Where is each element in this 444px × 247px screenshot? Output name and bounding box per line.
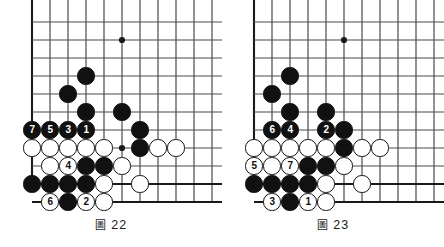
white-stone[interactable]: [23, 139, 40, 156]
move-stone-black-1[interactable]: 1: [77, 121, 94, 138]
star-point: [119, 37, 125, 43]
diagram-page: 7531462 圖 22 6425731 圖 23: [0, 0, 444, 247]
black-stone[interactable]: [77, 67, 94, 84]
move-number: 1: [83, 125, 88, 135]
move-stone-black-3[interactable]: 3: [59, 121, 76, 138]
move-stone-black-2[interactable]: 2: [317, 121, 334, 138]
black-stone[interactable]: [317, 157, 334, 174]
black-stone[interactable]: [335, 121, 352, 138]
black-stone[interactable]: [131, 139, 148, 156]
white-stone[interactable]: [95, 139, 112, 156]
move-stone-black-6[interactable]: 6: [263, 121, 280, 138]
figure-caption-number-23: 23: [333, 218, 349, 232]
black-stone[interactable]: [23, 175, 40, 192]
move-stone-white-1[interactable]: 1: [299, 193, 316, 210]
figure-caption-23: 圖 23: [222, 216, 444, 232]
move-number: 1: [305, 197, 310, 207]
move-stone-white-2[interactable]: 2: [77, 193, 94, 210]
black-stone[interactable]: [113, 103, 130, 120]
black-stone[interactable]: [281, 175, 298, 192]
black-stone[interactable]: [281, 103, 298, 120]
move-number: 5: [47, 125, 52, 135]
white-stone[interactable]: [95, 175, 112, 192]
white-stone[interactable]: [335, 157, 352, 174]
move-number: 7: [287, 161, 292, 171]
black-stone[interactable]: [59, 175, 76, 192]
move-number: 6: [47, 197, 52, 207]
black-stone[interactable]: [59, 85, 76, 102]
black-stone[interactable]: [41, 175, 58, 192]
move-number: 3: [65, 125, 70, 135]
white-stone[interactable]: [131, 175, 148, 192]
move-number: 6: [269, 125, 274, 135]
white-stone[interactable]: [263, 157, 280, 174]
white-stone[interactable]: [245, 139, 262, 156]
star-point: [341, 37, 347, 43]
white-stone[interactable]: [149, 139, 166, 156]
star-point: [119, 145, 125, 151]
black-stone[interactable]: [263, 85, 280, 102]
white-stone[interactable]: [41, 157, 58, 174]
go-board-23[interactable]: 6425731: [222, 0, 444, 212]
black-stone[interactable]: [263, 175, 280, 192]
move-number: 2: [323, 125, 328, 135]
white-stone[interactable]: [113, 157, 130, 174]
move-stone-black-7[interactable]: 7: [23, 121, 40, 138]
white-stone[interactable]: [41, 139, 58, 156]
black-stone[interactable]: [95, 157, 112, 174]
white-stone[interactable]: [95, 193, 112, 210]
black-stone[interactable]: [299, 157, 316, 174]
move-number: 2: [83, 197, 88, 207]
go-board-22[interactable]: 7531462: [0, 0, 222, 212]
white-stone[interactable]: [353, 139, 370, 156]
white-stone[interactable]: [371, 139, 388, 156]
black-stone[interactable]: [281, 67, 298, 84]
black-stone[interactable]: [77, 103, 94, 120]
figure-caption-glyph-22: 圖: [95, 219, 107, 232]
black-stone[interactable]: [77, 175, 94, 192]
move-stone-white-5[interactable]: 5: [245, 157, 262, 174]
black-stone[interactable]: [59, 193, 76, 210]
move-number: 3: [269, 197, 274, 207]
white-stone[interactable]: [317, 139, 334, 156]
black-stone[interactable]: [77, 157, 94, 174]
figure-caption-22: 圖 22: [0, 216, 222, 232]
white-stone[interactable]: [167, 139, 184, 156]
black-stone[interactable]: [299, 175, 316, 192]
move-stone-white-3[interactable]: 3: [263, 193, 280, 210]
white-stone[interactable]: [353, 175, 370, 192]
white-stone[interactable]: [299, 139, 316, 156]
move-stone-black-4[interactable]: 4: [281, 121, 298, 138]
white-stone[interactable]: [263, 139, 280, 156]
go-diagram-22: 7531462 圖 22: [0, 0, 222, 247]
move-stone-white-4[interactable]: 4: [59, 157, 76, 174]
black-stone[interactable]: [317, 103, 334, 120]
move-stone-black-5[interactable]: 5: [41, 121, 58, 138]
figure-caption-glyph-23: 圖: [317, 219, 329, 232]
white-stone[interactable]: [281, 139, 298, 156]
move-number: 5: [251, 161, 256, 171]
black-stone[interactable]: [131, 121, 148, 138]
white-stone[interactable]: [317, 193, 334, 210]
black-stone[interactable]: [281, 193, 298, 210]
figure-caption-number-22: 22: [111, 218, 127, 232]
black-stone[interactable]: [335, 139, 352, 156]
white-stone[interactable]: [317, 175, 334, 192]
move-number: 7: [29, 125, 34, 135]
move-stone-white-6[interactable]: 6: [41, 193, 58, 210]
white-stone[interactable]: [77, 139, 94, 156]
move-number: 4: [287, 125, 292, 135]
black-stone[interactable]: [245, 175, 262, 192]
move-number: 4: [65, 161, 70, 171]
white-stone[interactable]: [59, 139, 76, 156]
move-stone-white-7[interactable]: 7: [281, 157, 298, 174]
go-diagram-23: 6425731 圖 23: [222, 0, 444, 247]
